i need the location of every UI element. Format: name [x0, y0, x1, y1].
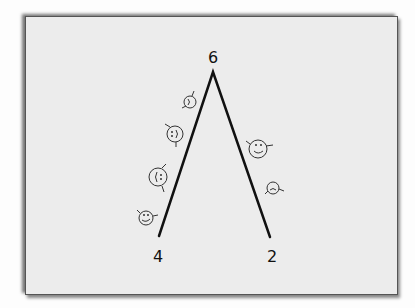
climber-face-icon [137, 210, 158, 225]
right-end-label: 2 [267, 247, 277, 266]
climber-face-icon [182, 91, 196, 108]
peak-diagram: 6 4 2 [0, 0, 415, 308]
climber-face-icon [149, 164, 167, 192]
peak-line [159, 72, 270, 237]
climber-face-icon [246, 140, 273, 158]
peak-label: 6 [208, 48, 218, 67]
left-end-label: 4 [153, 247, 163, 266]
climber-face-icon [265, 182, 284, 194]
climber-face-icon [165, 124, 183, 147]
